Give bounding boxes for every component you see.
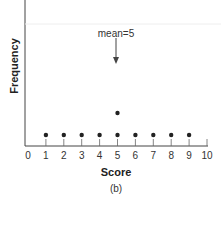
data-point [115,111,119,115]
data-point [115,133,119,137]
data-point [187,133,191,137]
x-tick-label: 4 [97,150,103,161]
x-tick-label: 0 [25,150,31,161]
x-tick-label: 5 [115,150,121,161]
x-tick-label: 6 [133,150,139,161]
data-point [133,133,137,137]
data-point [44,133,48,137]
x-tick-label: 8 [168,150,174,161]
x-tick-label: 3 [79,150,85,161]
data-point [151,133,155,137]
mean-annotation: mean=5 [98,28,134,39]
figure-caption: (b) [110,183,122,194]
data-points [44,111,192,137]
mean-arrow-icon [113,57,119,64]
x-ticks [46,139,207,146]
data-point [169,133,173,137]
data-point [97,133,101,137]
x-tick-label: 7 [151,150,157,161]
x-tick-label: 10 [201,150,212,161]
y-axis-label: Frequency [8,36,20,96]
data-point [80,133,84,137]
x-tick-label: 9 [186,150,192,161]
x-tick-label: 2 [61,150,67,161]
x-tick-label: 1 [43,150,49,161]
x-axis-label: Score [101,166,132,178]
data-point [62,133,66,137]
